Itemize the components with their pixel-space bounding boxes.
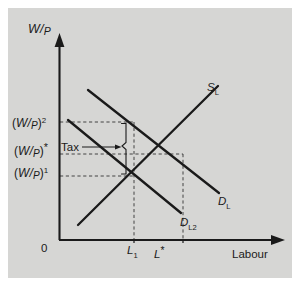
- curve-label-demand: DL: [218, 196, 231, 210]
- x-tick-label-l1: L1: [127, 245, 138, 259]
- x-axis-caption: Labour: [232, 249, 268, 261]
- y-tick-wstar-denominator: P: [33, 148, 40, 159]
- y-axis-arrowhead: [55, 33, 65, 47]
- figure-container: W/P (W/P)2 (W/P)* (W/P)1 0 L1 L* Labour …: [0, 0, 300, 286]
- curve-label-supply: SL: [207, 82, 219, 96]
- origin-label: 0: [41, 243, 47, 255]
- curve-label-demand-shifted: DL2: [180, 217, 197, 231]
- y-tick-w2-denominator: P: [31, 120, 38, 131]
- y-tick-label-wstar: (W/P)*: [14, 141, 48, 157]
- y-tick-w1-superscript: 1: [44, 166, 48, 175]
- y-tick-w1-numerator: W: [18, 166, 29, 180]
- x-tick-label-lstar: L*: [154, 245, 164, 260]
- curve-supply-SL: [78, 86, 218, 225]
- curve-label-supply-subscript: L: [215, 88, 219, 97]
- y-axis-caption-denominator: P: [44, 25, 51, 37]
- x-tick-l1-subscript: 1: [133, 251, 137, 260]
- y-tick-wstar-numerator: W: [18, 144, 29, 158]
- curve-label-demand-shifted-subscript: L2: [188, 223, 196, 232]
- x-axis-arrowhead: [271, 235, 285, 245]
- y-axis-caption-numerator: W: [28, 22, 40, 36]
- tax-leader-arrowhead: [115, 144, 122, 149]
- curves: [68, 86, 219, 225]
- curve-label-supply-base: S: [207, 81, 215, 93]
- y-tick-label-w2: (W/P)2: [12, 116, 46, 129]
- y-tick-w2-superscript: 2: [42, 116, 46, 125]
- curve-demand-DL2: [68, 120, 181, 213]
- y-axis-caption: W/P: [28, 23, 51, 36]
- y-tick-w1-denominator: P: [33, 170, 40, 181]
- x-tick-lstar-superscript: *: [160, 245, 164, 256]
- annotation-tax-label: Tax: [61, 142, 79, 154]
- curve-label-demand-subscript: L: [226, 202, 230, 211]
- y-tick-label-w1: (W/P)1: [14, 166, 48, 179]
- y-tick-wstar-superscript: *: [44, 141, 48, 153]
- y-tick-w2-numerator: W: [16, 116, 27, 130]
